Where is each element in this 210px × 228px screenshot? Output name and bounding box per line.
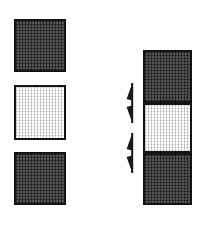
insertion-arrow-marker-top xyxy=(125,82,141,124)
square-middle-light xyxy=(14,85,66,140)
diagram-canvas xyxy=(0,0,210,228)
insertion-arrow-marker-bottom xyxy=(125,132,141,174)
arrow-pair-icon xyxy=(125,132,141,174)
assembled-stack-group xyxy=(143,50,192,205)
arrow-pair-icon xyxy=(125,82,141,124)
square-bottom-dark xyxy=(14,152,66,205)
square-top-dark xyxy=(14,19,66,72)
stack-block-middle-light xyxy=(143,103,192,153)
stack-block-top-dark xyxy=(143,50,192,103)
stack-block-bottom-dark xyxy=(143,153,192,205)
